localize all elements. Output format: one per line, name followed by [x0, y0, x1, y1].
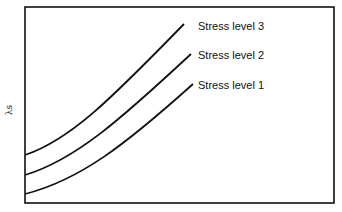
curve-stress-level-3 [25, 24, 184, 155]
label-stress-level-2: Stress level 2 [198, 49, 264, 61]
curve-stress-level-1 [25, 84, 193, 194]
label-stress-level-1: Stress level 1 [198, 79, 264, 91]
plot-frame [25, 7, 334, 203]
chart: Stress level 3 Stress level 2 Stress lev… [0, 0, 342, 212]
label-stress-level-3: Stress level 3 [198, 20, 264, 32]
y-axis-label: λs [4, 104, 14, 115]
curve-stress-level-2 [25, 54, 191, 175]
